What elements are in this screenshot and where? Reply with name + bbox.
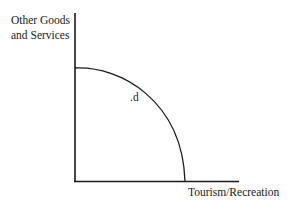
point-d-label: .d bbox=[130, 91, 139, 103]
ppf-curve bbox=[75, 68, 185, 181]
x-axis-label: Tourism/Recreation bbox=[188, 186, 279, 198]
ppf-diagram bbox=[0, 0, 295, 202]
